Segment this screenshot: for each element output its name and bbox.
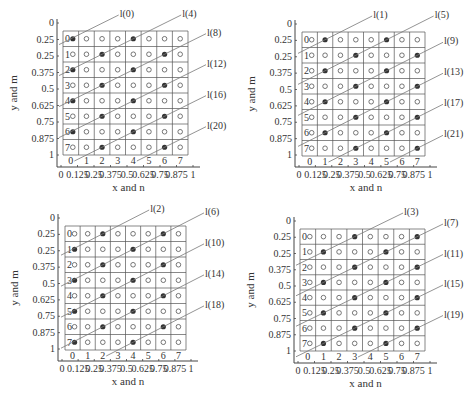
y-tick-label: 0.25 bbox=[275, 34, 293, 45]
col-label: 2 bbox=[338, 156, 343, 167]
row-label: 3 bbox=[302, 277, 307, 288]
empty-point bbox=[131, 293, 136, 298]
empty-point bbox=[369, 130, 374, 135]
empty-point bbox=[115, 52, 120, 57]
col-label: 5 bbox=[146, 350, 151, 361]
row-label: 6 bbox=[302, 323, 307, 334]
col-label: 7 bbox=[415, 351, 420, 362]
empty-point bbox=[399, 280, 404, 285]
empty-point bbox=[337, 341, 342, 346]
empty-point bbox=[352, 311, 357, 316]
y-tick-label: 0.5 bbox=[42, 83, 55, 94]
empty-point bbox=[71, 114, 76, 119]
row-label: 5 bbox=[67, 306, 72, 317]
y-tick-label: 0.25 bbox=[38, 228, 56, 239]
diagonal-line bbox=[61, 213, 204, 286]
line-label: l(2) bbox=[150, 203, 164, 215]
empty-point bbox=[176, 340, 181, 345]
y-tick-label: 0.25 bbox=[37, 34, 55, 45]
empty-point bbox=[178, 83, 183, 88]
row-label: 5 bbox=[304, 112, 309, 123]
empty-point bbox=[71, 83, 76, 88]
row-label: 6 bbox=[65, 126, 70, 137]
x-tick-label: 0.875 bbox=[402, 365, 425, 376]
x-axis-title: x and n bbox=[350, 181, 383, 193]
empty-point bbox=[337, 234, 342, 239]
y-tick-label: 0.875 bbox=[269, 329, 292, 340]
empty-point bbox=[384, 53, 389, 58]
row-label: 7 bbox=[302, 338, 307, 349]
empty-point bbox=[115, 98, 120, 103]
y-tick-label: 0.625 bbox=[269, 296, 292, 307]
x-tick-label: 0.875 bbox=[164, 363, 187, 374]
empty-point bbox=[337, 265, 342, 270]
empty-point bbox=[84, 98, 89, 103]
figure-panels: 00.250.250.3750.50.6250.750.875100.1250.… bbox=[0, 0, 467, 405]
y-axis-title: y and m bbox=[244, 272, 256, 308]
empty-point bbox=[352, 341, 357, 346]
col-label: 1 bbox=[321, 351, 326, 362]
empty-point bbox=[84, 145, 89, 150]
x-tick-label: 0 bbox=[296, 365, 301, 376]
empty-point bbox=[338, 146, 343, 151]
line-label: l(8) bbox=[207, 27, 221, 39]
row-label: 6 bbox=[304, 127, 309, 138]
y-tick-label: 0.25 bbox=[274, 248, 292, 259]
empty-point bbox=[369, 53, 374, 58]
empty-point bbox=[85, 247, 90, 252]
empty-point bbox=[309, 68, 314, 73]
y-tick-label: 0.75 bbox=[275, 116, 293, 127]
empty-point bbox=[176, 278, 181, 283]
row-label: 0 bbox=[67, 228, 72, 239]
line-label: l(10) bbox=[205, 237, 224, 249]
y-tick-label: 0 bbox=[287, 18, 292, 29]
empty-point bbox=[368, 341, 373, 346]
line-label: l(15) bbox=[444, 278, 463, 290]
empty-point bbox=[337, 280, 342, 285]
diagonal-line bbox=[106, 306, 204, 356]
empty-point bbox=[101, 309, 106, 314]
line-label: l(9) bbox=[444, 35, 458, 47]
col-label: 6 bbox=[161, 350, 166, 361]
row-label: 3 bbox=[65, 80, 70, 91]
y-tick-label: 0.25 bbox=[38, 245, 56, 256]
col-label: 7 bbox=[415, 156, 420, 167]
x-tick-label: 0.875 bbox=[165, 169, 188, 180]
y-tick-label: 0.875 bbox=[270, 133, 293, 144]
empty-point bbox=[100, 129, 105, 134]
row-label: 7 bbox=[304, 143, 309, 154]
empty-point bbox=[147, 129, 152, 134]
empty-point bbox=[162, 67, 167, 72]
empty-point bbox=[131, 262, 136, 267]
empty-point bbox=[115, 83, 120, 88]
empty-point bbox=[400, 84, 405, 89]
empty-point bbox=[384, 234, 389, 239]
col-label: 1 bbox=[323, 156, 328, 167]
empty-point bbox=[146, 231, 151, 236]
col-label: 3 bbox=[353, 156, 358, 167]
empty-point bbox=[85, 309, 90, 314]
row-label: 2 bbox=[302, 262, 307, 273]
empty-point bbox=[162, 98, 167, 103]
empty-point bbox=[384, 146, 389, 151]
x-axis-title: x and n bbox=[349, 377, 382, 389]
empty-point bbox=[176, 247, 181, 252]
diagonal-line bbox=[59, 34, 206, 107]
empty-point bbox=[337, 295, 342, 300]
x-tick-label: 1 bbox=[428, 169, 433, 180]
row-label: 1 bbox=[67, 244, 72, 255]
empty-point bbox=[161, 247, 166, 252]
row-label: 1 bbox=[302, 246, 307, 257]
empty-point bbox=[84, 36, 89, 41]
empty-point bbox=[85, 231, 90, 236]
empty-point bbox=[116, 247, 121, 252]
line-label: l(19) bbox=[444, 309, 463, 321]
empty-point bbox=[131, 231, 136, 236]
col-label: 4 bbox=[131, 350, 136, 361]
empty-point bbox=[415, 280, 420, 285]
empty-point bbox=[147, 67, 152, 72]
line-label: l(0) bbox=[120, 8, 134, 20]
empty-point bbox=[338, 53, 343, 58]
empty-point bbox=[72, 231, 77, 236]
x-tick-label: 0 bbox=[297, 169, 302, 180]
